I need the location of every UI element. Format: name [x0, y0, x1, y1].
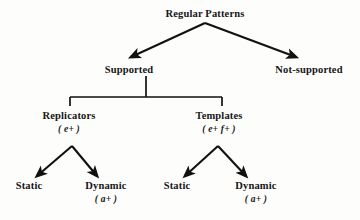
node-regular-patterns: Regular Patterns — [166, 8, 245, 20]
node-label-supported: Supported — [105, 64, 154, 76]
node-replicators: Replicators ( e+ ) — [43, 110, 96, 134]
node-supported: Supported — [105, 64, 154, 76]
edge-templates-to-dynamic — [218, 146, 246, 176]
node-replicators-static: Static — [16, 180, 43, 192]
node-label-replicators-static: Static — [16, 180, 43, 192]
node-annotation-replicators-dynamic: ( a+ ) — [85, 194, 126, 205]
node-not-supported: Not-supported — [275, 64, 342, 76]
node-label-not-supported: Not-supported — [275, 64, 342, 76]
edge-replicators-to-dynamic — [72, 146, 97, 176]
taxonomy-diagram: Regular Patterns Supported Not-supported… — [0, 0, 360, 220]
node-label-templates-dynamic: Dynamic — [235, 180, 276, 192]
edge-templates-to-static — [185, 146, 218, 176]
node-label-replicators: Replicators — [43, 110, 96, 122]
edge-root-to-supported — [131, 23, 205, 57]
edge-root-to-not-supported — [205, 23, 296, 57]
edge-supported-bracket — [70, 76, 222, 106]
node-label-replicators-dynamic: Dynamic — [85, 180, 126, 192]
node-annotation-templates-dynamic: ( a+ ) — [235, 194, 276, 205]
node-templates: Templates ( e+ f+ ) — [195, 110, 242, 134]
node-templates-static: Static — [164, 180, 191, 192]
node-annotation-replicators: ( e+ ) — [43, 124, 96, 135]
node-label-regular-patterns: Regular Patterns — [166, 8, 245, 20]
edge-replicators-to-static — [37, 146, 72, 176]
node-replicators-dynamic: Dynamic ( a+ ) — [85, 180, 126, 204]
node-templates-dynamic: Dynamic ( a+ ) — [235, 180, 276, 204]
node-label-templates-static: Static — [164, 180, 191, 192]
node-label-templates: Templates — [195, 110, 242, 122]
node-annotation-templates: ( e+ f+ ) — [195, 124, 242, 135]
